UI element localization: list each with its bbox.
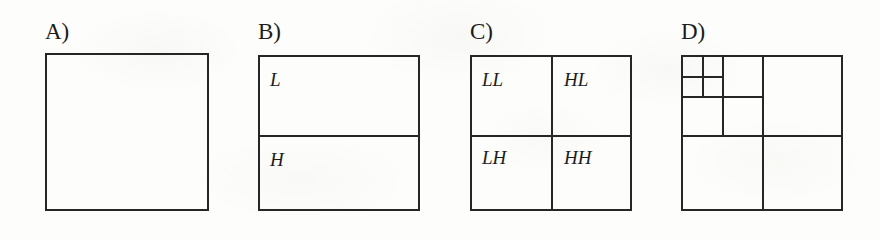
panel-a-image-square xyxy=(45,53,209,211)
band-label-hh: HH xyxy=(564,148,591,167)
band-label-l: L xyxy=(270,70,281,89)
band-label-hl: HL xyxy=(564,70,588,89)
band-label-h: H xyxy=(270,150,284,169)
panel-c-label: C) xyxy=(470,20,493,43)
panel-d-level1-vertical-divider xyxy=(762,57,764,209)
band-label-ll: LL xyxy=(482,70,503,89)
panel-d-level2-vertical-divider xyxy=(722,57,724,135)
panel-b-horizontal-divider xyxy=(260,135,418,137)
panel-a-label: A) xyxy=(45,20,69,43)
panel-d-level3-vertical-divider xyxy=(702,57,704,96)
panel-b-image-square xyxy=(258,55,420,211)
panel-d-label: D) xyxy=(681,20,705,43)
panel-d-image-square xyxy=(681,55,843,211)
band-label-lh: LH xyxy=(482,148,506,167)
panel-b-label: B) xyxy=(258,20,281,43)
panel-c-vertical-divider xyxy=(551,57,553,209)
